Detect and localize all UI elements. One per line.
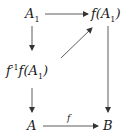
node-b: B (103, 119, 113, 132)
node-f-of-a1: f(A1) (91, 7, 120, 24)
arrow-preimage-to-fa1 (61, 28, 92, 58)
node-a: A (27, 119, 36, 132)
node-a1: A1 (25, 7, 39, 24)
arrow-label-f: f (67, 113, 70, 123)
node-preimage: f-1f(A1) (6, 64, 48, 81)
